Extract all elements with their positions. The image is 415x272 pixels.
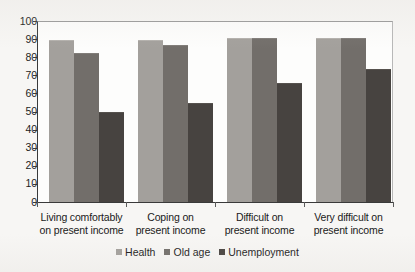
category-tick (215, 202, 216, 207)
legend-label: Unemployment (228, 246, 299, 258)
category-label-line1: Very difficult on (314, 211, 382, 223)
legend-swatch-icon (219, 249, 225, 255)
legend-item-old-age[interactable]: Old age (164, 246, 210, 258)
category-tick (393, 202, 394, 207)
category-tick (37, 202, 38, 207)
category-label: Living comfortablyon present income (31, 211, 132, 236)
bar-unemployment (188, 103, 213, 202)
bar-health (227, 38, 252, 202)
bar-group (227, 21, 302, 202)
category-label: Difficult onpresent income (209, 211, 310, 236)
bar-unemployment (366, 69, 391, 202)
legend-item-health[interactable]: Health (116, 246, 155, 258)
bar-health (316, 38, 341, 202)
category-label-line1: Coping on (147, 211, 194, 223)
category-label-line2: present income (209, 224, 310, 237)
bar-old-age (341, 38, 366, 202)
category-label-line1: Living comfortably (41, 211, 123, 223)
legend-swatch-icon (164, 249, 170, 255)
bar-old-age (252, 38, 277, 202)
chart-legend: HealthOld ageUnemployment (0, 246, 415, 258)
category-label-line1: Difficult on (236, 211, 283, 223)
category-tick (126, 202, 127, 207)
bar-unemployment (99, 112, 124, 202)
bar-health (138, 40, 163, 202)
category-label-line2: present income (298, 224, 399, 237)
category-label: Coping onpresent income (120, 211, 221, 236)
bar-group (138, 21, 213, 202)
category-label-line2: on present income (31, 224, 132, 237)
legend-label: Old age (173, 246, 210, 258)
legend-swatch-icon (116, 249, 122, 255)
bar-old-age (74, 53, 99, 202)
category-label-line2: present income (120, 224, 221, 237)
legend-label: Health (125, 246, 155, 258)
bar-old-age (163, 45, 188, 202)
bar-unemployment (277, 83, 302, 202)
bar-group (316, 21, 391, 202)
chart-screenshot: 0102030405060708090100 Living comfortabl… (0, 0, 415, 272)
bar-group (49, 21, 124, 202)
category-label: Very difficult onpresent income (298, 211, 399, 236)
bar-health (49, 40, 74, 202)
category-tick (304, 202, 305, 207)
legend-item-unemployment[interactable]: Unemployment (219, 246, 299, 258)
